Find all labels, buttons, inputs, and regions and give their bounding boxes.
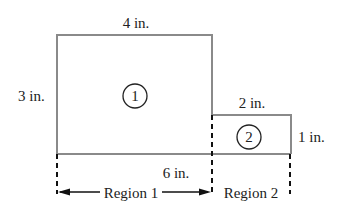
total-width-label: 6 in. [163,165,190,181]
small-height-label: 1 in. [298,129,325,145]
arrow-right-icon [199,189,211,196]
small-width-label: 2 in. [239,95,266,111]
shape-1-number: 1 [131,88,139,104]
composite-figure-diagram: 1 2 4 in. 3 in. 2 in. 1 in. 6 in. Region… [0,0,349,207]
region2-label: Region 2 [224,185,279,201]
region1-label: Region 1 [104,185,159,201]
shape-2-number: 2 [245,129,253,145]
left-height-label: 3 in. [18,88,45,104]
arrow-left-icon [58,189,70,196]
top-width-label: 4 in. [123,15,150,31]
